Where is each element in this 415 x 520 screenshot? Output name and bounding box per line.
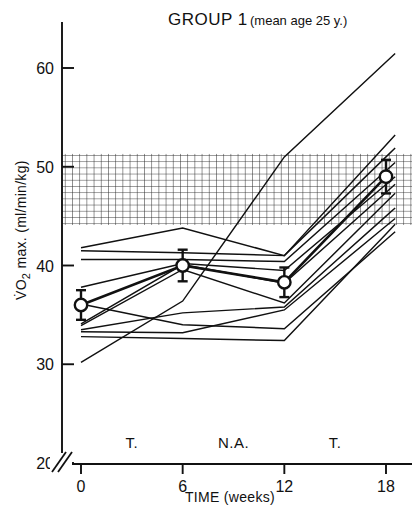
mean-marker xyxy=(75,299,87,311)
phase-annotations: T.N.A.T. xyxy=(125,434,341,451)
y-tick-label: 30 xyxy=(36,356,54,373)
ylabel-units: (ml/min/kg) xyxy=(13,160,29,237)
ylabel-v: V̇ xyxy=(13,290,29,300)
subject-line xyxy=(81,232,395,329)
svg-text:V̇O2 max. (ml/min/kg): V̇O2 max. (ml/min/kg) xyxy=(13,160,32,300)
ylabel-rest: max. xyxy=(13,237,29,273)
chart-title-paren: (mean age 25 y.) xyxy=(250,13,347,28)
mean-marker xyxy=(278,276,290,288)
ylabel-o: O xyxy=(13,279,29,290)
axis-break-icon xyxy=(50,452,72,474)
subject-line xyxy=(81,224,395,340)
reference-band xyxy=(62,154,412,225)
x-axis-label: TIME (weeks) xyxy=(185,489,275,505)
phase-label: N.A. xyxy=(218,434,249,451)
mean-marker xyxy=(176,259,188,271)
phase-label: T. xyxy=(329,434,342,451)
figure-panel: 2030405060 061218 GROUP 1 (mean age 25 y… xyxy=(0,0,415,520)
x-tick-label: 18 xyxy=(377,478,395,495)
y-axis-label: V̇O2 max. (ml/min/kg) xyxy=(13,160,32,300)
phase-label: T. xyxy=(125,434,138,451)
chart-title-main: GROUP 1 xyxy=(168,10,248,29)
vo2max-line-chart: 2030405060 061218 GROUP 1 (mean age 25 y… xyxy=(0,0,415,520)
y-tick-label: 40 xyxy=(36,258,54,275)
axes-group: 2030405060 061218 xyxy=(36,22,412,495)
x-tick-label: 12 xyxy=(275,478,293,495)
y-tick-label: 50 xyxy=(36,159,54,176)
x-tick-label: 0 xyxy=(77,478,86,495)
y-tick-label: 60 xyxy=(36,60,54,77)
mean-marker xyxy=(380,170,392,182)
reference-band-rect xyxy=(62,154,412,225)
